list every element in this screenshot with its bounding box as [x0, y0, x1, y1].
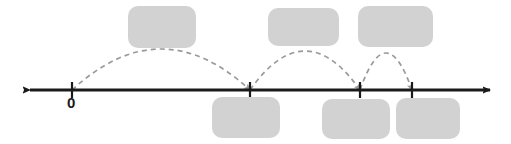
redacted-label-bottom-3	[396, 98, 460, 139]
redacted-label-bottom-1	[212, 97, 280, 138]
tick-label-zero: 0	[67, 95, 75, 110]
redacted-label-top-3	[358, 6, 433, 47]
hop-arc-1	[72, 49, 250, 90]
redacted-label-top-1	[128, 6, 196, 48]
redacted-label-bottom-2	[322, 99, 390, 139]
number-line-figure: 0	[0, 0, 511, 144]
hop-arc-3	[360, 53, 412, 90]
hop-arc-2	[250, 51, 360, 90]
redacted-label-top-2	[268, 8, 339, 46]
